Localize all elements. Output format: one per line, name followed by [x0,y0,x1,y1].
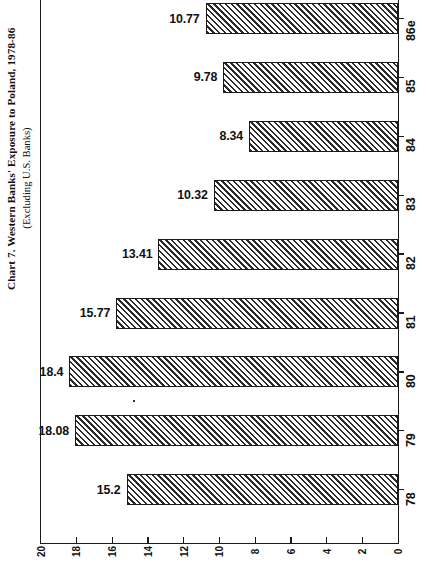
bar-value-label: 10.77 [132,11,200,27]
x-axis-tick-label: 10 [214,537,225,566]
y-axis-year-label: 83 [404,171,418,211]
bar-value-label: 8.34 [175,128,243,144]
bar [69,356,398,387]
y-axis-year-label: 86e [404,1,418,41]
bar [127,474,399,505]
axis-left-boundary [40,0,41,544]
bar [116,298,398,329]
bar-value-label: 9.78 [149,69,217,85]
bar-value-label: 15.77 [42,305,110,321]
scan-speck-artifact [133,400,135,402]
y-axis-year-label: 79 [404,407,418,447]
bar-value-label: 18.4 [0,364,63,380]
x-axis-tick-label: 18 [71,537,82,566]
x-axis-tick-label: 0 [393,537,404,566]
x-axis-tick-label: 8 [250,537,261,566]
y-axis-year-label: 85 [404,53,418,93]
x-axis-tick-label: 20 [35,537,46,566]
y-axis-year-label: 82 [404,230,418,270]
y-axis-year-label: 80 [404,348,418,388]
x-axis-tick-label: 12 [178,537,189,566]
bar [214,180,398,211]
y-axis-year-label: 78 [404,466,418,506]
bar [206,3,399,34]
bar-value-label: 13.41 [84,246,152,262]
x-axis-tick-label: 14 [142,537,153,566]
bar [223,62,398,93]
bar [75,415,398,446]
y-axis-year-label: 84 [404,112,418,152]
x-axis-tick-label: 16 [107,537,118,566]
bar-value-label: 10.32 [140,187,208,203]
bar [249,121,398,152]
bar [158,239,398,270]
x-axis-tick-label: 2 [357,537,368,566]
bar-value-label: 15.2 [53,482,121,498]
x-axis-tick-label: 4 [321,537,332,566]
plot-area: 20181614121086420 86e8584838281807978 10… [0,0,426,566]
y-axis-year-label: 81 [404,289,418,329]
bar-value-label: 18.08 [1,423,69,439]
x-axis-tick-label: 6 [285,537,296,566]
